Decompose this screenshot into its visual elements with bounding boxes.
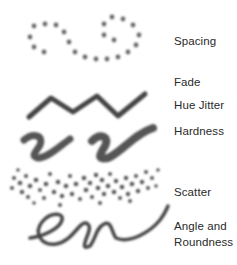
label-fade: Fade: [174, 75, 201, 89]
spacing-stroke: [28, 15, 142, 62]
label-angle-and: Angle and: [174, 219, 227, 233]
label-roundness: Roundness: [174, 235, 233, 249]
hardness-stroke: [24, 128, 153, 158]
label-spacing: Spacing: [174, 34, 216, 48]
label-hue-jitter: Hue Jitter: [174, 98, 224, 112]
label-scatter: Scatter: [174, 185, 211, 199]
label-hardness: Hardness: [174, 124, 224, 138]
angle-roundness-stroke: [30, 206, 168, 247]
hue-jitter-stroke: [29, 94, 145, 117]
scatter-stroke: [10, 168, 160, 207]
